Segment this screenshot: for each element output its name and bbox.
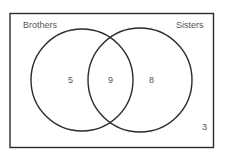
intersection-value: 9 (108, 76, 113, 85)
outside-value: 3 (202, 123, 207, 132)
sisters-circle (88, 28, 192, 132)
brothers-only-value: 5 (68, 76, 73, 85)
brothers-label: Brothers (23, 21, 57, 30)
brothers-circle (31, 29, 133, 131)
sisters-label: Sisters (176, 21, 204, 30)
sisters-only-value: 8 (149, 76, 154, 85)
